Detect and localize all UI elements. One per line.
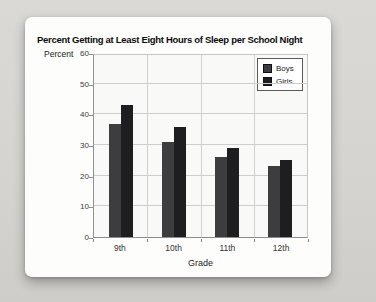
y-tick-label: 50 [55,80,89,90]
x-category-label-9th: 9th [98,243,142,253]
y-axis-title: Percent [44,49,73,59]
bar-girls-11th [227,148,239,237]
y-tick-mark [89,238,93,239]
category-column-9th [94,55,147,237]
x-category-label-12th: 12th [259,243,303,253]
chart-title: Percent Getting at Least Eight Hours of … [37,34,302,45]
x-tick-mark [201,239,202,242]
y-tick-label: 40 [55,110,89,120]
category-column-12th [254,55,307,237]
x-category-label-10th: 10th [152,243,196,253]
x-axis-title: Grade [93,258,308,268]
page-background: Percent Getting at Least Eight Hours of … [0,0,376,302]
plot-area: BoysGirls [93,54,308,238]
x-category-label-11th: 11th [205,243,249,253]
bar-girls-10th [174,127,186,237]
x-tick-mark [308,239,309,242]
category-column-10th [147,55,200,237]
bar-girls-12th [280,160,292,237]
chart-card: Percent Getting at Least Eight Hours of … [25,17,331,277]
y-tick-label: 10 [55,202,89,212]
y-tick-label: 0 [55,233,89,243]
bar-boys-10th [162,142,174,237]
bar-boys-9th [109,124,121,237]
x-tick-mark [93,239,94,242]
bar-boys-12th [268,166,280,237]
bar-boys-11th [215,157,227,237]
bar-girls-9th [121,105,133,237]
x-tick-mark [254,239,255,242]
x-tick-mark [147,239,148,242]
y-tick-label: 20 [55,172,89,182]
y-tick-label: 30 [55,141,89,151]
category-column-11th [201,55,254,237]
